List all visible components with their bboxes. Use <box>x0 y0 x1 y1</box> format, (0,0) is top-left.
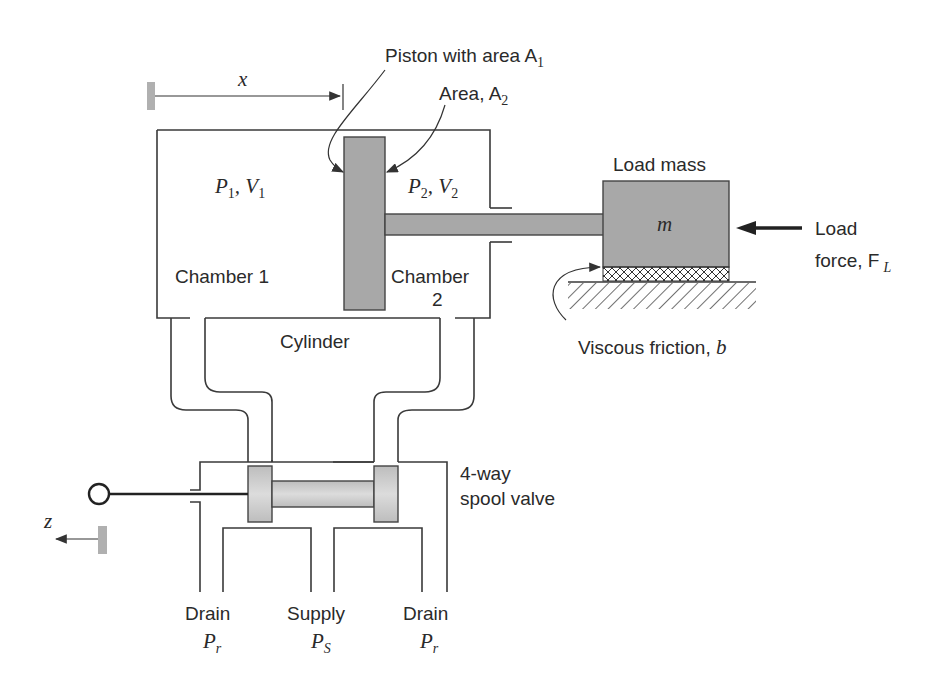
drain-left-label: Drain <box>185 603 230 624</box>
p1-v1-label: P1, V1 <box>214 174 265 201</box>
drain-right-label: Drain <box>403 603 448 624</box>
supply-label: Supply <box>287 603 346 624</box>
hydraulic-actuator-diagram: x Piston with area A1 Area, A2 P1, V1 P2… <box>0 0 945 687</box>
p2-v2-label: P2, V2 <box>407 174 458 201</box>
z-displacement-indicator <box>56 526 107 554</box>
viscous-friction-label: Viscous friction, b <box>578 335 726 359</box>
spool-valve-body <box>190 460 447 592</box>
spool <box>248 466 398 522</box>
cylinder-body <box>157 130 512 462</box>
supply-pressure: PS <box>310 629 331 656</box>
chamber1-label: Chamber 1 <box>175 266 269 287</box>
load-force-arrow <box>736 221 802 235</box>
load-force-label-line2: force, FL <box>815 250 891 275</box>
drain-left-pressure: Pr <box>202 629 222 656</box>
piston-rod <box>385 214 605 235</box>
cylinder-label: Cylinder <box>280 331 350 352</box>
piston-area-label: Piston with area A1 <box>385 45 544 70</box>
chamber2-label-line2: 2 <box>432 289 443 310</box>
valve-label-line2: spool valve <box>460 488 555 509</box>
piston <box>344 137 385 310</box>
friction-layer <box>603 267 729 281</box>
area2-leader <box>387 105 445 172</box>
load-force-label-line1: Load <box>815 218 857 239</box>
chamber2-label-line1: Chamber <box>391 266 470 287</box>
drain-right-pressure: Pr <box>419 629 439 656</box>
spool-handle <box>89 484 109 504</box>
x-label: x <box>237 67 248 91</box>
mass-symbol: m <box>657 212 672 236</box>
ground-hatch <box>568 283 756 309</box>
valve-label-line1: 4-way <box>460 463 511 484</box>
load-mass-label: Load mass <box>613 154 706 175</box>
z-label: z <box>43 509 52 533</box>
area2-label: Area, A2 <box>439 83 508 108</box>
